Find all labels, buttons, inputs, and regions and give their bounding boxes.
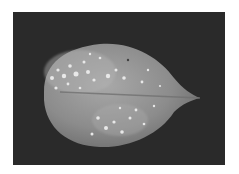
leaf-image	[0, 0, 239, 174]
